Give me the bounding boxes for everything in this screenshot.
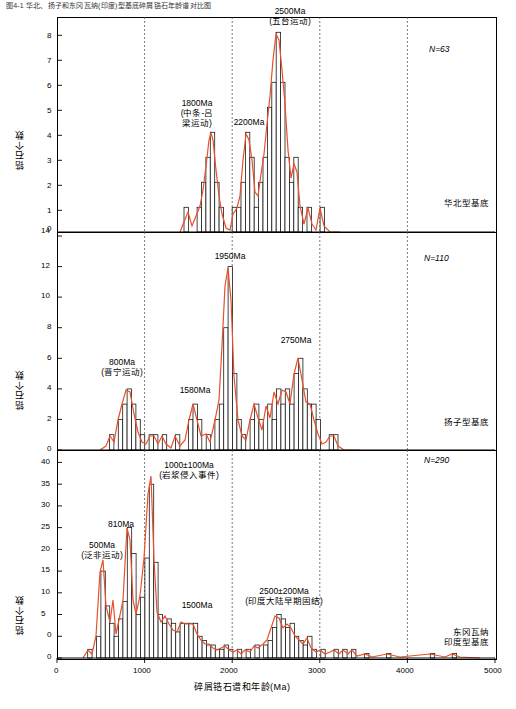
ytick-p1-7: 7: [47, 56, 51, 65]
ytick-p3-0: 0: [47, 652, 51, 661]
annotation-2200ma: 2200Ma: [224, 117, 274, 127]
y-axis-label-panel2: 锆石个数: [12, 300, 25, 410]
ytick-p3-10: 5: [41, 609, 45, 618]
ytick-p3-35: 30: [41, 500, 50, 509]
ytick-p3-5: 0: [47, 630, 51, 639]
ytick-p2-10: 10: [41, 291, 50, 300]
xtick-4000: 4000: [396, 666, 414, 675]
ytick-p1-4: 4: [47, 131, 51, 140]
ytick-p2-top: 14: [41, 226, 50, 235]
n-label-panel2: N=110: [424, 253, 449, 263]
corner-label-panel1: 华北型基底: [415, 198, 489, 208]
ytick-p1-8: 8: [47, 31, 51, 40]
ytick-p1-6: 6: [47, 81, 51, 90]
ytick-p2-zero: 0: [47, 444, 51, 453]
annotation-800ma: 800Ma (晋宁运动): [87, 357, 157, 377]
ytick-p2-8: 8: [47, 322, 51, 331]
corner-label-panel2: 扬子型基底: [415, 417, 489, 427]
ytick-p2-2: 2: [47, 414, 51, 423]
ytick-p3-20: 15: [41, 565, 50, 574]
annotation-2750ma: 2750Ma: [271, 335, 321, 345]
xtick-1000: 1000: [133, 666, 151, 675]
xtick-3000: 3000: [308, 666, 326, 675]
ytick-p2-12: 12: [41, 261, 50, 270]
figure-root: 图4-1 华北、扬子和东冈瓦纳(印度)型基底碎屑锆石年龄谱对比图 锆石个数: [0, 0, 516, 709]
n-label-panel1: N=63: [429, 44, 450, 54]
ytick-p2-4: 4: [47, 383, 51, 392]
ytick-p3-15: 10: [41, 587, 50, 596]
y-axis-label-panel3: 锆石个数: [12, 525, 25, 635]
xtick-0: 0: [54, 666, 58, 675]
xtick-2000: 2000: [220, 666, 238, 675]
annotation-1950ma: 1950Ma: [205, 251, 255, 261]
n-label-panel3: N=290: [424, 455, 449, 465]
annotation-2500ma: 2500Ma (五台运动): [254, 6, 326, 26]
annotation-500ma: 500Ma (泛非运动): [69, 540, 135, 560]
ytick-p1-1: 1: [47, 206, 51, 215]
ytick-p3-45: 40: [41, 457, 50, 466]
ytick-p3-30: 25: [41, 522, 50, 531]
ytick-p1-2: 2: [47, 181, 51, 190]
annotation-810ma: 810Ma: [98, 519, 144, 529]
ytick-p3-40: 35: [41, 479, 50, 488]
y-axis-label-panel1: 锆石个数: [12, 60, 25, 170]
annotation-1800ma: 1800Ma (中条-吕 梁运动): [162, 98, 232, 128]
corner-label-panel3: 东冈瓦纳 印度型基底: [405, 627, 489, 647]
annotation-1000ma: 1000±100Ma (岩浆侵入事件): [141, 460, 237, 480]
ytick-p3-25: 20: [41, 544, 50, 553]
xtick-5000: 5000: [484, 666, 502, 675]
ytick-p2-6: 6: [47, 353, 51, 362]
annotation-1500ma: 1500Ma: [172, 600, 222, 610]
annotation-2500ma-india: 2500±200Ma (印度大陆早期固结): [223, 586, 345, 606]
ytick-p1-3: 3: [47, 156, 51, 165]
annotation-1580ma: 1580Ma: [170, 385, 220, 395]
ytick-p1-5: 5: [47, 106, 51, 115]
x-axis-label: 碎屑锆石谱和年龄(Ma): [194, 680, 291, 693]
